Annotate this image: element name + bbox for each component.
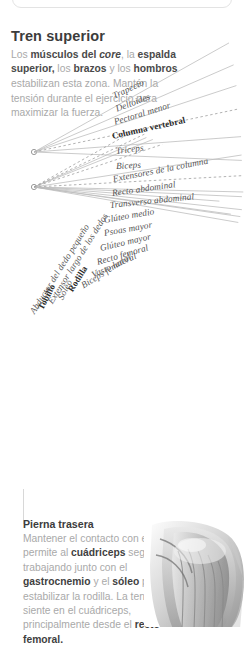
knee-anatomy-illustration [144,521,248,627]
